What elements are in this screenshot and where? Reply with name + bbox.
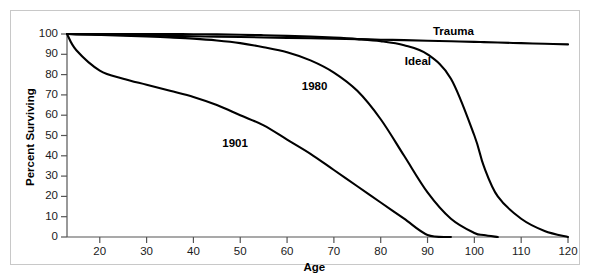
- survival-curve-plot: [0, 0, 597, 279]
- curve-trauma: [67, 34, 568, 44]
- data-curves-group: [67, 34, 568, 237]
- x-tick-label: 50: [220, 245, 260, 257]
- figure-container: 0102030405060708090100 20304050607080901…: [0, 0, 597, 279]
- curve-label-1901: 1901: [222, 137, 248, 149]
- curve-label-1980: 1980: [302, 80, 328, 92]
- axes-group: [61, 34, 568, 243]
- y-axis-ticks: [61, 34, 67, 237]
- y-tick-label: 20: [20, 189, 58, 201]
- curve-label-ideal: Ideal: [405, 55, 431, 67]
- curve-1901: [67, 34, 451, 237]
- x-tick-label: 40: [173, 245, 213, 257]
- x-tick-label: 20: [80, 245, 120, 257]
- y-tick-label: 0: [20, 230, 58, 242]
- y-tick-label: 80: [20, 68, 58, 80]
- y-tick-label: 10: [20, 210, 58, 222]
- curve-label-trauma: Trauma: [433, 25, 474, 37]
- x-tick-label: 100: [454, 245, 494, 257]
- x-axis-title: Age: [304, 261, 326, 273]
- x-tick-label: 120: [548, 245, 588, 257]
- x-tick-label: 60: [267, 245, 307, 257]
- x-tick-label: 80: [361, 245, 401, 257]
- x-tick-label: 30: [127, 245, 167, 257]
- x-tick-label: 90: [408, 245, 448, 257]
- x-tick-label: 110: [501, 245, 541, 257]
- x-tick-label: 70: [314, 245, 354, 257]
- y-tick-label: 100: [20, 27, 58, 39]
- y-axis-title: Percent Surviving: [24, 88, 36, 186]
- y-tick-label: 90: [20, 47, 58, 59]
